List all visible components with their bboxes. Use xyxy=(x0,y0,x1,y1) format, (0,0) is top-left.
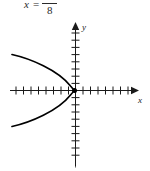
equation-expression: x = 8 xyxy=(24,0,57,15)
equation-equals-sign: = xyxy=(33,0,38,10)
equation-lhs: x xyxy=(24,0,29,10)
graph-figure: y x xyxy=(0,18,150,171)
equation-fraction: 8 xyxy=(42,0,57,16)
coordinate-plane: y x xyxy=(0,18,150,171)
y-axis xyxy=(72,22,80,166)
vertex-point-marker xyxy=(72,88,77,93)
y-axis-label: y xyxy=(81,22,86,32)
x-axis-label: x xyxy=(137,95,142,105)
equation-denominator: 8 xyxy=(47,5,53,16)
